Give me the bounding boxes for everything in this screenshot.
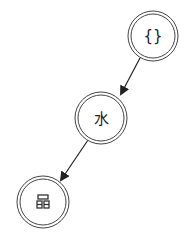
node-water[interactable]: 水 (75, 92, 127, 144)
braces-icon: {} (143, 27, 162, 45)
node-braces[interactable]: {} (128, 11, 178, 61)
node-hierarchy[interactable] (17, 176, 69, 228)
tree-diagram: {} 水 (0, 0, 193, 236)
edge-n2-n3 (61, 140, 88, 180)
edge-n1-n2 (121, 58, 140, 94)
water-character: 水 (94, 110, 109, 128)
